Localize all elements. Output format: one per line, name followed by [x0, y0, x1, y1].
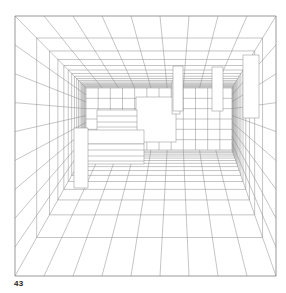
pilaster-4 — [243, 55, 259, 118]
corridor-grid — [15, 16, 276, 276]
figure-number: 43 — [14, 279, 23, 288]
pilaster-3 — [212, 67, 223, 111]
perspective-drawing — [0, 0, 286, 280]
left-parapet — [74, 128, 88, 188]
upper-step — [97, 110, 137, 132]
pilaster-2 — [173, 66, 183, 111]
architectural-elements — [74, 55, 259, 188]
landing — [80, 130, 144, 144]
